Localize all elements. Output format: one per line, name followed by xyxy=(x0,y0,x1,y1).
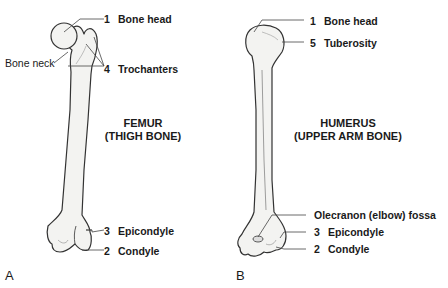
humerus-label-olecranon-fossa: Olecranon (elbow) fossa xyxy=(314,209,436,221)
label-number: 2 xyxy=(104,245,118,257)
humerus-label-bone-head: 1Bone head xyxy=(310,15,378,27)
label-text: Epicondyle xyxy=(328,226,384,238)
humerus-title: HUMERUS (UPPER ARM BONE) xyxy=(283,117,413,143)
humerus-label-tuberosity: 5Tuberosity xyxy=(310,37,377,49)
label-number: 5 xyxy=(310,37,324,49)
bone-illustrations xyxy=(0,0,448,288)
label-text: Bone head xyxy=(118,13,172,25)
femur-label-bone-head: 1Bone head xyxy=(104,13,172,25)
label-number: 3 xyxy=(104,225,118,237)
label-text: Condyle xyxy=(118,245,159,257)
label-number: 1 xyxy=(104,13,118,25)
label-text: Epicondyle xyxy=(118,225,174,237)
humerus-label-epicondyle: 3Epicondyle xyxy=(314,226,384,238)
label-number: 4 xyxy=(104,63,118,75)
label-text: Tuberosity xyxy=(324,37,377,49)
femur-label-trochanters: 4Trochanters xyxy=(104,63,178,75)
humerus-label-condyle: 2Condyle xyxy=(314,243,369,255)
label-number: 2 xyxy=(314,243,328,255)
humerus-title-line2: (UPPER ARM BONE) xyxy=(283,130,413,143)
humerus-title-line1: HUMERUS xyxy=(283,117,413,130)
panel-letter-a: A xyxy=(5,268,14,283)
label-number: 1 xyxy=(310,15,324,27)
panel-letter-b: B xyxy=(236,268,245,283)
label-number: 3 xyxy=(314,226,328,238)
femur-title: FEMUR (THIGH BONE) xyxy=(98,117,188,143)
femur-label-epicondyle: 3Epicondyle xyxy=(104,225,174,237)
femur-title-line1: FEMUR xyxy=(98,117,188,130)
label-text: Bone head xyxy=(324,15,378,27)
label-text: Condyle xyxy=(328,243,369,255)
humerus-illustration xyxy=(238,25,286,256)
femur-title-line2: (THIGH BONE) xyxy=(98,130,188,143)
label-text: Trochanters xyxy=(118,63,178,75)
femur-label-bone-neck: Bone neck xyxy=(5,57,55,69)
femur-label-condyle: 2Condyle xyxy=(104,245,159,257)
